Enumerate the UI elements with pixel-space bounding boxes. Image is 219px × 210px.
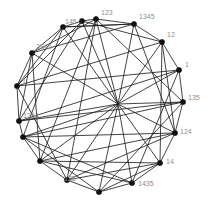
graph-node[interactable] <box>129 180 134 185</box>
node-label: 123 <box>101 9 113 16</box>
node-label: 125 <box>64 175 76 182</box>
node-label: 1 <box>185 61 189 68</box>
node-label: 1 <box>22 78 26 85</box>
graph-node[interactable] <box>16 118 21 123</box>
graph-edge <box>32 53 118 104</box>
graph-node[interactable] <box>180 99 185 104</box>
graph-node[interactable] <box>79 18 84 23</box>
graph-node[interactable] <box>60 24 65 29</box>
node-label: 1345 <box>139 13 155 20</box>
graph-edge <box>134 24 162 42</box>
graph-node[interactable] <box>172 130 177 135</box>
node-label: 124 <box>180 128 192 135</box>
node-label: 2345 <box>36 43 52 50</box>
graph-edge <box>179 70 183 102</box>
graph-node[interactable] <box>14 83 19 88</box>
graph-edge <box>17 86 19 121</box>
graph-edge <box>40 133 175 161</box>
graph-node[interactable] <box>176 67 181 72</box>
graph-edge <box>40 19 96 161</box>
graph-edge <box>19 102 183 121</box>
graph-node[interactable] <box>93 16 98 21</box>
node-label: 1435 <box>138 180 154 187</box>
graph-edge <box>162 42 175 133</box>
graph-node[interactable] <box>37 158 42 163</box>
node-label: 135 <box>188 94 200 101</box>
graph-node[interactable] <box>159 39 164 44</box>
graph-node[interactable] <box>157 160 162 165</box>
graph-canvas <box>0 0 219 210</box>
graph-edge <box>23 102 183 137</box>
node-label: 1234 <box>23 112 39 119</box>
node-label: 14 <box>166 158 174 165</box>
graph-node[interactable] <box>96 189 101 194</box>
graph-node[interactable] <box>20 134 25 139</box>
graph-node[interactable] <box>131 21 136 26</box>
graph-edge <box>96 19 134 24</box>
graph-diagram: 1231345121135124141435125123412345145 <box>0 0 219 210</box>
node-label: 145 <box>65 18 77 25</box>
graph-edge <box>162 42 179 70</box>
graph-edge <box>67 19 96 180</box>
graph-node[interactable] <box>29 50 34 55</box>
node-label: 12 <box>167 31 175 38</box>
graph-edge <box>67 163 160 180</box>
